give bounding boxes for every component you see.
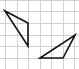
grid-canvas xyxy=(0,0,79,69)
triangle-left xyxy=(5,11,28,46)
grid-diagram xyxy=(0,0,79,69)
